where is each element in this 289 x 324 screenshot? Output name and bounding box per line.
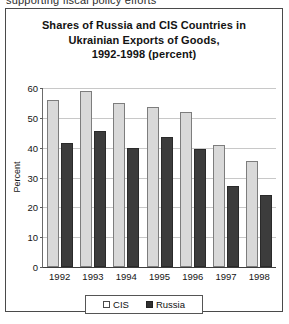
bar-russia-1994 [127, 148, 139, 267]
legend-label-cis: CIS [113, 299, 129, 310]
scan-artifact-text: supporting fiscal policy efforts [6, 0, 276, 7]
bar-russia-1998 [260, 195, 272, 267]
bar-cis-1997 [213, 145, 225, 267]
bar-cis-1995 [147, 107, 159, 267]
chart-legend: CIS Russia [85, 295, 203, 314]
bar-cis-1994 [113, 103, 125, 267]
plot-wrapper: Percent 01020304050601992199319941995199… [6, 9, 282, 311]
y-tick-label: 0 [33, 262, 38, 273]
y-tick-mark [40, 207, 43, 208]
scan-artifact-line: supporting fiscal policy efforts [6, 0, 276, 6]
y-tick-mark [40, 267, 43, 268]
y-tick-mark [40, 118, 43, 119]
chart-figure: Shares of Russia and CIS Countries in Uk… [5, 8, 283, 312]
y-tick-label: 50 [27, 112, 38, 123]
x-tick-label-1997: 1997 [215, 271, 236, 282]
plot-area: 0102030405060199219931994199519961997199… [42, 88, 276, 268]
y-gridline [43, 267, 276, 268]
y-axis-title: Percent [12, 161, 22, 192]
bar-group [246, 88, 272, 267]
x-tick-label-1992: 1992 [49, 271, 70, 282]
bar-cis-1992 [47, 100, 59, 267]
x-tick-label-1996: 1996 [182, 271, 203, 282]
bar-group [113, 88, 139, 267]
bar-cis-1998 [246, 161, 258, 267]
y-tick-mark [40, 148, 43, 149]
y-tick-label: 20 [27, 202, 38, 213]
y-tick-label: 10 [27, 232, 38, 243]
bar-russia-1992 [61, 143, 73, 267]
legend-entry-cis: CIS [103, 299, 129, 310]
y-tick-mark [40, 237, 43, 238]
bar-cis-1996 [180, 112, 192, 267]
legend-entry-russia: Russia [146, 299, 185, 310]
y-tick-label: 60 [27, 83, 38, 94]
bar-russia-1997 [227, 186, 239, 267]
x-tick-label-1995: 1995 [149, 271, 170, 282]
bar-group [180, 88, 206, 267]
bar-group [213, 88, 239, 267]
y-tick-label: 30 [27, 172, 38, 183]
y-tick-mark [40, 88, 43, 89]
bar-group [47, 88, 73, 267]
legend-swatch-russia-icon [146, 301, 153, 308]
bar-russia-1996 [194, 149, 206, 267]
y-tick-mark [40, 178, 43, 179]
x-tick-label-1993: 1993 [82, 271, 103, 282]
x-tick-label-1994: 1994 [116, 271, 137, 282]
bar-group [147, 88, 173, 267]
bar-group [80, 88, 106, 267]
legend-swatch-cis-icon [103, 301, 110, 308]
bar-cis-1993 [80, 91, 92, 267]
bar-russia-1993 [94, 131, 106, 267]
x-tick-label-1998: 1998 [249, 271, 270, 282]
bar-russia-1995 [161, 137, 173, 267]
y-tick-label: 40 [27, 142, 38, 153]
legend-label-russia: Russia [156, 299, 185, 310]
